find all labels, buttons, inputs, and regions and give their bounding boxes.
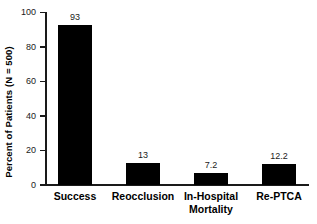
bar-value-label-1: 13	[113, 151, 173, 160]
bar-value-label-3: 12.2	[249, 152, 309, 161]
category-label-re-ptca: Re-PTCA	[234, 190, 317, 203]
y-tick-label-40: 40	[26, 112, 36, 121]
category-label-line: Reocclusion	[112, 190, 174, 202]
y-tick-label-100: 100	[21, 8, 36, 17]
bar-in-hospital-mortality	[194, 173, 228, 185]
category-label-line: Success	[54, 190, 97, 202]
bar-chart: Percent of Patients (N = 500) 0204060801…	[0, 0, 317, 224]
y-tick-label-0: 0	[31, 181, 36, 190]
bar-value-label-2: 7.2	[181, 161, 241, 170]
bars-group: 93137.212.2	[45, 12, 309, 185]
category-label-line: In-Hospital	[184, 190, 238, 202]
bar-success	[58, 25, 92, 185]
bar-re-ptca	[262, 164, 296, 185]
y-tick-label-20: 20	[26, 146, 36, 155]
category-label-line: Re-PTCA	[256, 190, 302, 202]
y-axis-title: Percent of Patients (N = 500)	[0, 0, 16, 224]
category-label-line: Mortality	[166, 203, 256, 216]
y-tick-label-80: 80	[26, 43, 36, 52]
y-tick-label-60: 60	[26, 77, 36, 86]
bar-value-label-0: 93	[45, 13, 105, 22]
bar-reocclusion	[126, 163, 160, 185]
